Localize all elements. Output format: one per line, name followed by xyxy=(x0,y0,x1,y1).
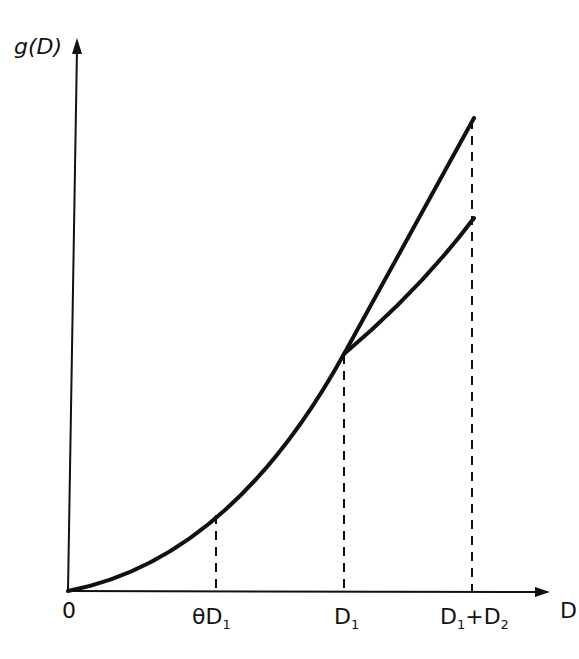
x-axis-label: D xyxy=(560,598,577,623)
tick-d1: D1 xyxy=(334,604,359,632)
x-axis xyxy=(68,591,540,592)
diagram-canvas xyxy=(0,0,579,659)
curve-convex xyxy=(68,118,474,591)
y-axis-label: g(D) xyxy=(14,34,62,59)
tick-theta-d1: θD1 xyxy=(192,604,231,632)
tick-d1-plus-d2: D1+D2 xyxy=(440,604,509,632)
origin-label: 0 xyxy=(62,598,76,623)
y-axis-arrow-icon xyxy=(72,38,82,54)
x-axis-arrow-icon xyxy=(535,587,550,597)
y-axis xyxy=(68,48,77,591)
